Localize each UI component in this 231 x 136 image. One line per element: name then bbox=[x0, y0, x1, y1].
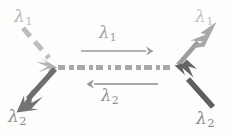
axis-forward-arrow bbox=[81, 46, 154, 55]
scattering-diagram: λ1 λ2 λ1 λ2 λ1 λ2 bbox=[0, 0, 231, 136]
label-outgoing-right-lambda1: λ1 bbox=[195, 8, 214, 28]
lambda-subscript: 2 bbox=[19, 114, 26, 128]
axis-backward-arrow bbox=[87, 79, 159, 88]
lambda-symbol: λ bbox=[101, 86, 112, 105]
label-axis-backward-lambda2: λ2 bbox=[101, 88, 119, 107]
lambda-subscript: 1 bbox=[206, 14, 213, 28]
lambda-subscript: 1 bbox=[110, 31, 117, 44]
incoming-right-l2-arrow bbox=[175, 60, 214, 108]
lambda-symbol: λ bbox=[8, 106, 19, 126]
label-axis-forward-lambda1: λ1 bbox=[99, 25, 117, 44]
lambda-subscript: 2 bbox=[207, 116, 214, 130]
lambda-symbol: λ bbox=[14, 6, 25, 26]
lambda-symbol: λ bbox=[99, 23, 110, 42]
lambda-subscript: 2 bbox=[112, 94, 119, 107]
label-outgoing-left-lambda2: λ2 bbox=[8, 108, 27, 128]
lambda-subscript: 1 bbox=[25, 14, 32, 28]
lambda-symbol: λ bbox=[195, 6, 206, 26]
label-incoming-right-lambda2: λ2 bbox=[196, 110, 215, 130]
outgoing-left-l2-arrow bbox=[17, 69, 56, 113]
lambda-symbol: λ bbox=[196, 108, 207, 128]
label-incoming-left-lambda1: λ1 bbox=[14, 8, 33, 28]
outgoing-right-l1-arrow bbox=[178, 22, 217, 65]
